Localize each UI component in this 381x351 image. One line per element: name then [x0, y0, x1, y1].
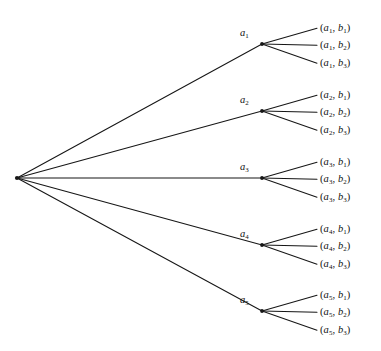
leaf-label-a5-b2: (a5, b2) [320, 307, 350, 318]
edge-root-to-a5 [17, 178, 262, 311]
edge-a2-leaf-3 [262, 111, 317, 130]
edge-a4-leaf-2 [262, 245, 317, 246]
edge-a4-leaf-1 [262, 229, 317, 245]
edge-a1-leaf-3 [262, 44, 317, 63]
leaf-label-a2-b1: (a2, b1) [320, 90, 350, 101]
tree-diagram: a1(a1, b1)(a1, b2)(a1, b3)a2(a2, b1)(a2,… [0, 0, 381, 351]
edge-a5-leaf-2 [262, 311, 317, 312]
node-label-a5: a5 [240, 295, 249, 306]
leaf-label-a5-b1: (a5, b1) [320, 290, 350, 301]
leaf-label-a1-b2: (a1, b2) [320, 40, 350, 51]
leaf-label-a4-b3: (a4, b3) [320, 259, 350, 270]
node-dot-a3 [260, 176, 264, 180]
edge-a3-leaf-1 [262, 162, 317, 178]
node-dot-a5 [260, 309, 264, 313]
leaf-label-a1-b3: (a1, b3) [320, 58, 350, 69]
edge-a4-leaf-3 [262, 245, 317, 264]
edge-root-to-a1 [17, 44, 262, 178]
leaf-label-a1-b1: (a1, b1) [320, 23, 350, 34]
leaf-label-a3-b1: (a3, b1) [320, 157, 350, 168]
leaf-label-a3-b2: (a3, b2) [320, 174, 350, 185]
node-label-a2: a2 [240, 95, 249, 106]
node-label-a1: a1 [240, 28, 249, 39]
edge-a3-leaf-2 [262, 178, 317, 179]
node-label-a4: a4 [240, 229, 249, 240]
leaf-label-a3-b3: (a3, b3) [320, 192, 350, 203]
node-dot-a4 [260, 243, 264, 247]
leaf-label-a4-b1: (a4, b1) [320, 224, 350, 235]
edge-a3-leaf-3 [262, 178, 317, 197]
edge-root-to-a4 [17, 178, 262, 245]
leaf-label-a2-b3: (a2, b3) [320, 125, 350, 136]
edge-a5-leaf-1 [262, 295, 317, 311]
node-label-a3: a3 [240, 162, 249, 173]
leaf-label-a2-b2: (a2, b2) [320, 107, 350, 118]
node-dot-a1 [260, 42, 264, 46]
node-dot-root [15, 176, 19, 180]
edge-a2-leaf-2 [262, 111, 317, 112]
edge-root-to-a2 [17, 111, 262, 178]
edge-a5-leaf-3 [262, 311, 317, 330]
leaf-label-a4-b2: (a4, b2) [320, 241, 350, 252]
edge-a2-leaf-1 [262, 95, 317, 111]
node-dot-a2 [260, 109, 264, 113]
edge-a1-leaf-2 [262, 44, 317, 45]
edge-a1-leaf-1 [262, 28, 317, 44]
leaf-label-a5-b3: (a5, b3) [320, 325, 350, 336]
